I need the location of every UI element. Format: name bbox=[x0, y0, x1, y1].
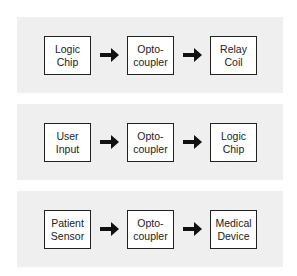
right-arrow-icon bbox=[183, 48, 202, 62]
block-medical-device: Medical Device bbox=[210, 210, 257, 249]
block-label-line2: Sensor bbox=[51, 230, 84, 243]
block-logic-chip: Logic Chip bbox=[44, 36, 91, 75]
flow-panel-1: Logic Chip Opto- coupler Relay Coil bbox=[17, 17, 283, 93]
block-label-line1: Logic bbox=[55, 43, 80, 56]
block-label-line1: Opto- bbox=[137, 130, 163, 143]
block-user-input: User Input bbox=[44, 123, 91, 162]
right-arrow-icon bbox=[183, 222, 202, 236]
block-label-line1: Opto- bbox=[137, 43, 163, 56]
block-patient-sensor: Patient Sensor bbox=[44, 210, 91, 249]
block-label-line2: Device bbox=[217, 230, 249, 243]
block-optocoupler: Opto- coupler bbox=[127, 123, 174, 162]
block-label-line2: coupler bbox=[133, 56, 167, 69]
right-arrow-icon bbox=[100, 48, 119, 62]
block-label-line1: User bbox=[56, 130, 78, 143]
block-label-line2: Chip bbox=[223, 143, 245, 156]
right-arrow-icon bbox=[183, 135, 202, 149]
block-label-line1: Opto- bbox=[137, 217, 163, 230]
right-arrow-icon bbox=[100, 135, 119, 149]
flow-panel-3: Patient Sensor Opto- coupler Medical Dev… bbox=[17, 191, 283, 267]
block-label-line2: Input bbox=[56, 143, 79, 156]
block-label-line2: coupler bbox=[133, 230, 167, 243]
block-relay-coil: Relay Coil bbox=[210, 36, 257, 75]
block-label-line1: Patient bbox=[51, 217, 84, 230]
block-label-line1: Medical bbox=[215, 217, 251, 230]
block-label-line1: Relay bbox=[220, 43, 247, 56]
flow-panel-2: User Input Opto- coupler Logic Chip bbox=[17, 104, 283, 180]
block-logic-chip: Logic Chip bbox=[210, 123, 257, 162]
block-optocoupler: Opto- coupler bbox=[127, 210, 174, 249]
block-optocoupler: Opto- coupler bbox=[127, 36, 174, 75]
right-arrow-icon bbox=[100, 222, 119, 236]
block-label-line1: Logic bbox=[221, 130, 246, 143]
block-label-line2: Chip bbox=[57, 56, 79, 69]
block-label-line2: coupler bbox=[133, 143, 167, 156]
block-label-line2: Coil bbox=[224, 56, 242, 69]
